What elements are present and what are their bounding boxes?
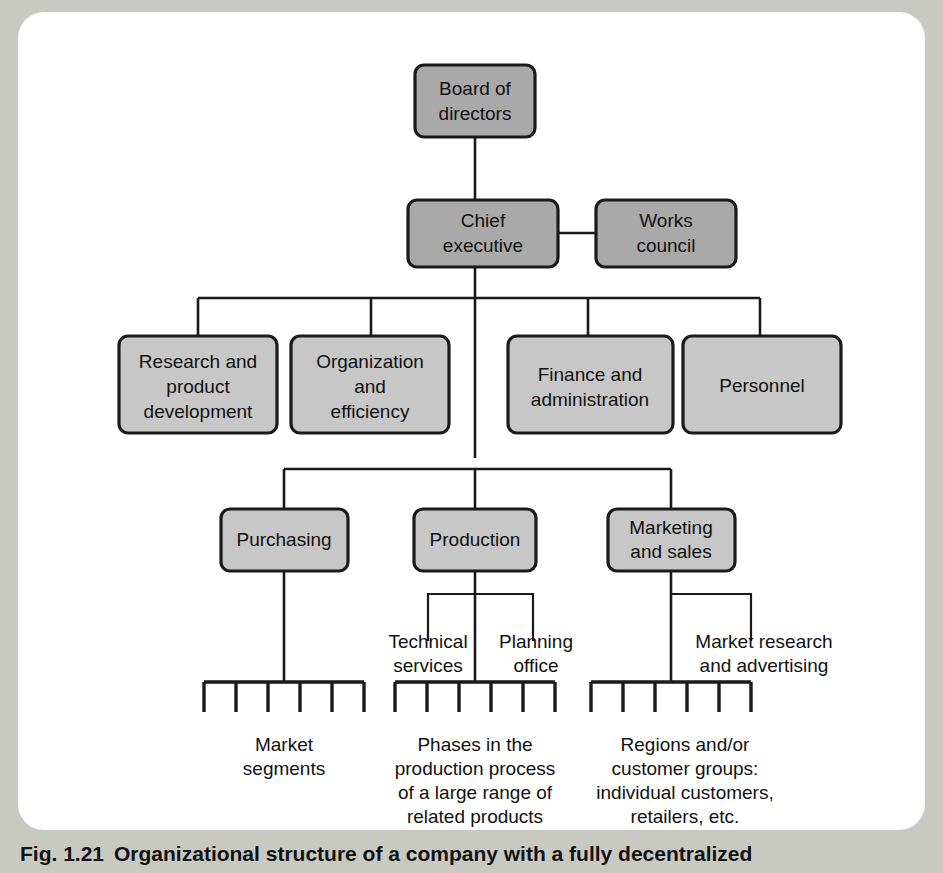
org-chart-svg: Board of directors Chief executive Works… [18, 12, 925, 830]
staff-label-planning-office-line2: office [513, 655, 558, 676]
marketing-comb [591, 682, 751, 712]
comb-caption-marketing-line3: individual customers, [596, 782, 773, 803]
node-finance-and-administration[interactable]: Finance and administration [508, 336, 673, 433]
node-chief-executive[interactable]: Chief executive [408, 200, 558, 267]
node-marketing-and-sales[interactable]: Marketing and sales [608, 509, 735, 571]
node-label-production: Production [430, 529, 521, 550]
staff-label-technical-services-line1: Technical [388, 631, 467, 652]
comb-caption-production-phases: Phases in the production process of a la… [395, 734, 556, 827]
comb-caption-marketing-regions: Regions and/or customer groups: individu… [596, 734, 773, 827]
node-purchasing[interactable]: Purchasing [221, 509, 348, 571]
figure-caption-text: Organizational structure of a company wi… [114, 842, 752, 865]
node-label-board-line2: directors [439, 103, 512, 124]
staff-label-planning-office: Planning office [499, 631, 573, 676]
comb-caption-marketing-line4: retailers, etc. [631, 806, 740, 827]
node-label-org-eff-line3: efficiency [331, 401, 410, 422]
node-research-and-product-development[interactable]: Research and product development [119, 336, 277, 433]
comb-caption-purchasing-line1: Market [255, 734, 314, 755]
staff-label-market-research-line2: and advertising [700, 655, 829, 676]
comb-caption-production-line4: related products [407, 806, 543, 827]
node-label-org-eff-line2: and [354, 376, 386, 397]
node-label-ceo-line2: executive [443, 235, 523, 256]
node-box-board[interactable] [415, 65, 535, 137]
comb-caption-production-line2: production process [395, 758, 556, 779]
node-works-council[interactable]: Works council [596, 200, 736, 267]
node-label-marketing-line2: and sales [630, 541, 711, 562]
staff-label-technical-services: Technical services [388, 631, 467, 676]
node-organization-and-efficiency[interactable]: Organization and efficiency [291, 336, 449, 433]
comb-caption-market-segments: Market segments [243, 734, 325, 779]
node-personnel[interactable]: Personnel [683, 336, 841, 433]
node-label-purchasing: Purchasing [236, 529, 331, 550]
node-label-board-line1: Board of [439, 78, 512, 99]
node-label-rnd-line1: Research and [139, 351, 257, 372]
figure-root: Board of directors Chief executive Works… [0, 0, 943, 873]
comb-caption-production-line3: of a large range of [398, 782, 553, 803]
staff-label-planning-office-line1: Planning [499, 631, 573, 652]
node-label-org-eff-line1: Organization [316, 351, 424, 372]
figure-caption-number: Fig. 1.21 [20, 842, 104, 865]
comb-caption-marketing-line2: customer groups: [612, 758, 759, 779]
node-label-works-council-line1: Works [639, 210, 692, 231]
diagram-panel: Board of directors Chief executive Works… [18, 12, 925, 830]
node-label-rnd-line3: development [144, 401, 254, 422]
node-label-rnd-line2: product [166, 376, 230, 397]
node-board-of-directors[interactable]: Board of directors [415, 65, 535, 137]
comb-caption-production-line1: Phases in the [417, 734, 532, 755]
node-label-marketing-line1: Marketing [629, 517, 712, 538]
node-label-works-council-line2: council [636, 235, 695, 256]
comb-caption-purchasing-line2: segments [243, 758, 325, 779]
node-label-finance-line1: Finance and [538, 364, 643, 385]
comb-caption-marketing-line1: Regions and/or [621, 734, 751, 755]
node-label-ceo-line1: Chief [461, 210, 506, 231]
staff-label-market-research: Market research and advertising [695, 631, 832, 676]
node-label-finance-line2: administration [531, 389, 649, 410]
staff-label-technical-services-line2: services [393, 655, 463, 676]
purchasing-comb [204, 682, 364, 712]
production-comb [395, 682, 555, 712]
node-production[interactable]: Production [414, 509, 536, 571]
comb-layer [204, 682, 751, 712]
figure-caption: Fig. 1.21Organizational structure of a c… [20, 841, 923, 867]
staff-label-market-research-line1: Market research [695, 631, 832, 652]
node-label-personnel: Personnel [719, 375, 805, 396]
